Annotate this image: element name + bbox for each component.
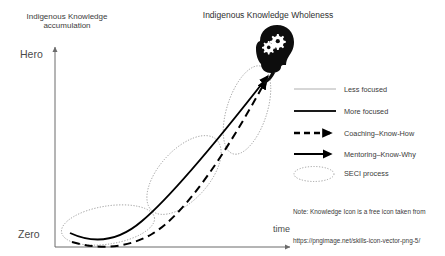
note-block: Note: Knowledge Icon is a free icon take… (293, 188, 443, 256)
legend-swatch-seci-process (294, 167, 334, 182)
legend-label-more-focused: More focused (344, 108, 388, 117)
apex-title: Indigenous Knowledge Wholeness (188, 10, 348, 20)
y-axis-title: Indigenous Knowledge accumulation (8, 12, 126, 31)
head-with-gears-icon (256, 25, 294, 84)
seci-ellipse-group (59, 60, 281, 251)
x-axis-label: time (273, 224, 290, 235)
y-axis-bottom-label: Zero (18, 228, 40, 240)
legend-swatch-group (294, 89, 336, 182)
legend-label-seci-process: SECI process (344, 170, 389, 179)
note-line-2: https://pngimage.net/skills-icon-vector-… (293, 236, 443, 246)
y-axis-top-label: Hero (20, 48, 43, 60)
legend-label-mentoring-know-why: Mentoring–Know-Why (344, 151, 416, 160)
legend-label-coaching-know-how: Coaching–Know-How (344, 130, 414, 139)
legend-label-less-focused: Less focused (344, 86, 387, 95)
diagram-canvas: Indigenous Knowledge accumulation Indige… (0, 0, 445, 256)
more-focused-curve (70, 76, 268, 239)
seci-ellipse-middle (133, 123, 234, 228)
coaching-know-how-curve (72, 80, 266, 247)
note-line-1: Note: Knowledge Icon is a free icon take… (293, 207, 443, 217)
